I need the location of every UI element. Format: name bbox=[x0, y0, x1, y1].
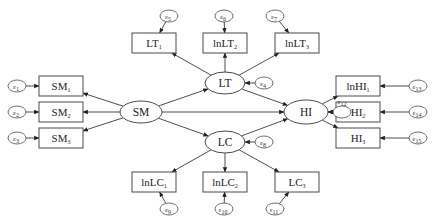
observed-label-subscript: 2 bbox=[234, 44, 237, 50]
loading-SM-SM1 bbox=[83, 93, 123, 106]
observed-label-base: lnLC bbox=[212, 176, 235, 188]
error-label-subscript: 10 bbox=[221, 209, 227, 215]
error-e9: ε9 bbox=[160, 203, 178, 215]
observed-label-subscript: 1 bbox=[67, 87, 70, 93]
error-e6: ε6 bbox=[215, 10, 233, 22]
path-SM-LT bbox=[159, 89, 209, 106]
path-SM-LC bbox=[158, 118, 208, 136]
error-label-subscript: 6 bbox=[223, 16, 226, 22]
latent-LT: LT bbox=[205, 72, 245, 94]
latent-label-base: LT bbox=[219, 77, 232, 89]
latent-label: LC bbox=[218, 136, 233, 148]
observed-lnLT3: lnLT3 bbox=[275, 33, 319, 53]
nodes-layer: SM1SM2SM3LT1lnLT2lnLT3lnLC1lnLC2LC3lnHI1… bbox=[8, 10, 427, 215]
latent-label: HI bbox=[300, 106, 312, 118]
loading-LT-LT1 bbox=[172, 53, 211, 75]
error-label-subscript: 1 bbox=[16, 86, 19, 92]
observed-label-base: SM bbox=[52, 80, 68, 92]
observed-label-subscript: 1 bbox=[164, 183, 167, 189]
error-e3: ε3 bbox=[8, 132, 26, 144]
error-e7: ε7 bbox=[266, 10, 284, 22]
observed-label-subscript: 3 bbox=[362, 139, 365, 145]
loading-SM-SM3 bbox=[83, 118, 123, 131]
observed-HI3: HI3 bbox=[336, 128, 380, 148]
observed-label-subscript: 2 bbox=[235, 183, 238, 189]
latent-label-base: SM bbox=[133, 106, 150, 118]
error-ellipse bbox=[333, 106, 351, 118]
observed-lnLC2: lnLC2 bbox=[203, 172, 247, 192]
sem-diagram: SM1SM2SM3LT1lnLT2lnLT3lnLC1lnLC2LC3lnHI1… bbox=[0, 0, 439, 222]
error-label-subscript: 12 bbox=[340, 101, 346, 107]
observed-label-base: HI bbox=[351, 132, 363, 144]
observed-label: lnLC1 bbox=[141, 176, 167, 189]
error-label-subscript: 9 bbox=[168, 209, 171, 215]
error-arrow-e5 bbox=[160, 22, 166, 33]
error-arrow-e7 bbox=[279, 21, 289, 33]
observed-label-base: SM bbox=[52, 132, 68, 144]
observed-SM2: SM2 bbox=[39, 102, 83, 122]
error-e15: ε15 bbox=[409, 132, 427, 144]
error-label-subscript: 5 bbox=[168, 16, 171, 22]
path-LT-HI bbox=[242, 89, 288, 105]
observed-label-base: lnHI bbox=[346, 80, 367, 92]
observed-label-base: LC bbox=[288, 176, 302, 188]
error-e2: ε2 bbox=[8, 106, 26, 118]
observed-label-subscript: 1 bbox=[367, 87, 370, 93]
loading-LC-LC3 bbox=[239, 150, 279, 172]
error-arrow-e11 bbox=[279, 192, 289, 204]
observed-label: lnHI1 bbox=[346, 80, 369, 93]
observed-label-subscript: 3 bbox=[303, 183, 306, 189]
error-label-subscript: 15 bbox=[415, 138, 421, 144]
error-label-subscript: 3 bbox=[16, 138, 19, 144]
observed-LC3: LC3 bbox=[275, 172, 319, 192]
observed-label-base: HI bbox=[351, 106, 363, 118]
error-label-subscript: 2 bbox=[16, 112, 19, 118]
error-label-subscript: 11 bbox=[273, 209, 279, 215]
error-e13: ε13 bbox=[409, 80, 427, 92]
observed-SM1: SM1 bbox=[39, 76, 83, 96]
observed-label: lnLT3 bbox=[285, 37, 309, 50]
error-e14: ε14 bbox=[409, 106, 427, 118]
observed-label: lnLT2 bbox=[213, 37, 237, 50]
error-arrow-e9 bbox=[160, 192, 166, 203]
observed-label-subscript: 3 bbox=[306, 44, 309, 50]
error-label: ε12 bbox=[338, 98, 347, 107]
observed-label: lnLC2 bbox=[212, 176, 238, 189]
error-e12: ε12 bbox=[333, 98, 351, 118]
loading-LC-lnLC1 bbox=[172, 150, 211, 172]
observed-LT1: LT1 bbox=[132, 33, 176, 53]
observed-lnLT2: lnLT2 bbox=[203, 33, 247, 53]
observed-label-base: SM bbox=[52, 106, 68, 118]
observed-SM3: SM3 bbox=[39, 128, 83, 148]
observed-label-subscript: 3 bbox=[67, 139, 70, 145]
observed-label-subscript: 2 bbox=[67, 113, 70, 119]
error-e5: ε5 bbox=[160, 10, 178, 22]
latent-label-base: LC bbox=[218, 136, 233, 148]
observed-label-base: LT bbox=[146, 37, 159, 49]
observed-label-base: lnLC bbox=[141, 176, 164, 188]
path-LC-HI bbox=[242, 119, 288, 136]
observed-label-base: lnLT bbox=[213, 37, 234, 49]
observed-label-subscript: 1 bbox=[159, 44, 162, 50]
error-label-subscript: 8 bbox=[263, 142, 266, 148]
error-label-subscript: 4 bbox=[263, 83, 266, 89]
error-e4: ε4 bbox=[255, 77, 273, 89]
latent-HI: HI bbox=[284, 100, 328, 124]
observed-label-base: lnLT bbox=[285, 37, 306, 49]
error-e11: ε11 bbox=[266, 203, 284, 215]
observed-lnHI1: lnHI1 bbox=[336, 76, 380, 96]
latent-LC: LC bbox=[205, 131, 245, 153]
error-label-subscript: 7 bbox=[274, 16, 277, 22]
observed-lnLC1: lnLC1 bbox=[132, 172, 176, 192]
latent-SM: SM bbox=[120, 101, 162, 123]
error-e10: ε10 bbox=[215, 203, 233, 215]
error-label-subscript: 14 bbox=[415, 112, 421, 118]
error-e8: ε8 bbox=[255, 136, 273, 148]
error-e1: ε1 bbox=[8, 80, 26, 92]
observed-label-subscript: 2 bbox=[362, 113, 365, 119]
latent-label: LT bbox=[219, 77, 232, 89]
error-label-subscript: 13 bbox=[415, 86, 421, 92]
loading-LT-lnLT3 bbox=[239, 53, 279, 75]
latent-label: SM bbox=[133, 106, 150, 118]
latent-label-base: HI bbox=[300, 106, 312, 118]
